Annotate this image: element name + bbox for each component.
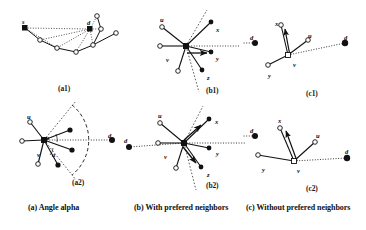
node-filled: [67, 127, 72, 132]
node-x: [207, 117, 212, 122]
node-open: [95, 14, 100, 19]
node-open: [158, 44, 163, 49]
cap-c: (c) Without prefered neighbors: [246, 203, 350, 212]
node-d: [87, 26, 93, 32]
a1-nodes: [22, 14, 118, 55]
node-d: [126, 144, 132, 150]
node-y: [207, 146, 212, 151]
node-label-a1-s: s: [22, 19, 25, 26]
node-open: [74, 50, 79, 55]
node-label-b2-v: v: [164, 154, 167, 161]
node-y: [209, 50, 214, 55]
node-label-a2-d: d: [108, 133, 111, 140]
node-label-c2-d-right: d: [345, 149, 348, 156]
node-label-b1-y: y: [216, 56, 219, 63]
node-open: [176, 69, 181, 74]
node-label-b2-u: u: [158, 113, 162, 120]
node-u: [158, 121, 163, 126]
node-label-c2-x: x: [278, 118, 281, 125]
node-s: [22, 25, 28, 31]
cap-a: (a) Angle alpha: [28, 203, 79, 212]
node-open: [36, 162, 41, 167]
node-label-c1-d-left: d: [250, 35, 253, 42]
panel-sublabel-a2: (a2): [72, 178, 84, 187]
node-open: [38, 38, 43, 43]
panel-sublabel-a1: (a1): [58, 84, 70, 93]
node-label-a2-v: v: [37, 152, 40, 159]
panel-b1: [158, 10, 240, 92]
node-label-c1-d-right: d: [344, 35, 347, 42]
node-v: [181, 140, 187, 146]
node-label-c1-y: y: [268, 73, 271, 80]
node-label-a2-alpha1: a: [46, 135, 49, 142]
node-label-c1-x: x: [275, 21, 278, 28]
node-label-c2-d-left: d: [250, 128, 253, 135]
node-open: [99, 27, 104, 32]
node-u: [160, 25, 165, 30]
node-open: [91, 43, 96, 48]
panel-a1: [22, 14, 118, 55]
node-label-c1-u: u: [308, 33, 312, 40]
node-label-b1-z: z: [207, 75, 210, 82]
panel-sublabel-b2: (b2): [206, 181, 219, 190]
node-u: [313, 140, 318, 145]
node-label-c2-v: v: [297, 168, 300, 175]
node-v: [286, 53, 291, 58]
node-v: [183, 43, 189, 49]
figure-container: sduvaaduxvyzuxdvyzxuddvyxdudyv (a1)(a2)(…: [0, 0, 366, 230]
node-label-b1-u: u: [160, 17, 164, 24]
node-open: [114, 31, 119, 36]
node-x: [278, 126, 283, 131]
panel-a2: [20, 101, 115, 180]
node-label-c2-y: y: [262, 167, 265, 174]
panel-b2: [126, 106, 245, 190]
node-x: [209, 20, 214, 25]
node-y: [256, 153, 261, 158]
node-label-b1-v: v: [166, 57, 169, 64]
node-filled: [69, 147, 74, 152]
b2-sector-rays: [184, 106, 203, 190]
node-open: [156, 141, 161, 146]
node-label-a1-d: d: [87, 20, 90, 27]
b2-forward-arrow-to-z: [183, 147, 196, 163]
node-label-c2-u: u: [316, 133, 320, 140]
node-d-right: [344, 155, 350, 161]
node-label-a2-alpha2: a: [52, 152, 55, 159]
node-y: [266, 63, 271, 68]
node-label-c1-v: v: [293, 62, 296, 69]
node-label-b2-x: x: [215, 119, 218, 126]
node-label-b2-d: d: [124, 138, 127, 145]
node-filled: [55, 162, 60, 167]
cap-b: (b) With prefered neighbors: [134, 203, 228, 212]
node-label-a2-u: u: [27, 114, 31, 121]
node-open: [55, 46, 60, 51]
panel-c2: [242, 126, 350, 164]
node-z: [200, 68, 205, 73]
a1-solid-edges: [25, 16, 116, 52]
node-open: [174, 166, 179, 171]
node-label-b2-z: z: [207, 172, 210, 179]
c2-vd-line: [294, 158, 347, 161]
c2-nodes: [252, 126, 350, 164]
panel-sublabel-c1: (c1): [306, 89, 318, 98]
node-z: [199, 165, 204, 170]
panel-sublabel-b1: (b1): [206, 86, 219, 95]
node-label-b2-y: y: [216, 151, 219, 158]
node-x: [279, 23, 284, 28]
node-v: [292, 159, 297, 164]
node-open: [20, 139, 25, 144]
panel-sublabel-c2: (c2): [306, 184, 318, 193]
node-label-b1-x: x: [216, 27, 219, 34]
